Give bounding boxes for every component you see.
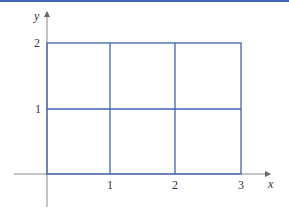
x-tick-3: 3: [238, 179, 244, 191]
grid-lines: [47, 43, 241, 174]
x-tick-2: 2: [172, 179, 178, 191]
y-axis-label: y: [34, 10, 39, 22]
x-tick-1: 1: [107, 179, 113, 191]
y-tick-1: 1: [35, 103, 41, 115]
grid-diagram: [0, 0, 289, 213]
y-tick-2: 2: [34, 37, 40, 49]
x-axis-label: x: [268, 178, 273, 190]
